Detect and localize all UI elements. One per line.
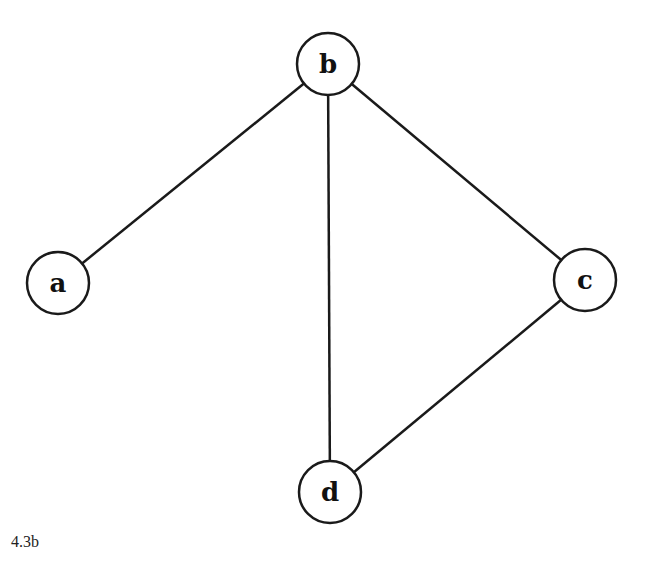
- node-b: b: [297, 33, 359, 95]
- edge-b-a: [82, 84, 304, 264]
- edges-group: [82, 84, 561, 473]
- node-c: c: [554, 249, 616, 311]
- node-label: a: [50, 268, 67, 298]
- graph-diagram: abcd: [0, 0, 647, 563]
- node-label: c: [577, 265, 593, 295]
- edge-c-d: [354, 300, 561, 472]
- nodes-group: abcd: [27, 33, 616, 523]
- edge-b-d: [328, 95, 330, 461]
- edge-b-c: [352, 84, 562, 260]
- figure-caption: 4.3b: [11, 533, 39, 551]
- node-label: b: [319, 49, 337, 79]
- node-a: a: [27, 252, 89, 314]
- node-d: d: [299, 461, 361, 523]
- node-label: d: [321, 477, 339, 507]
